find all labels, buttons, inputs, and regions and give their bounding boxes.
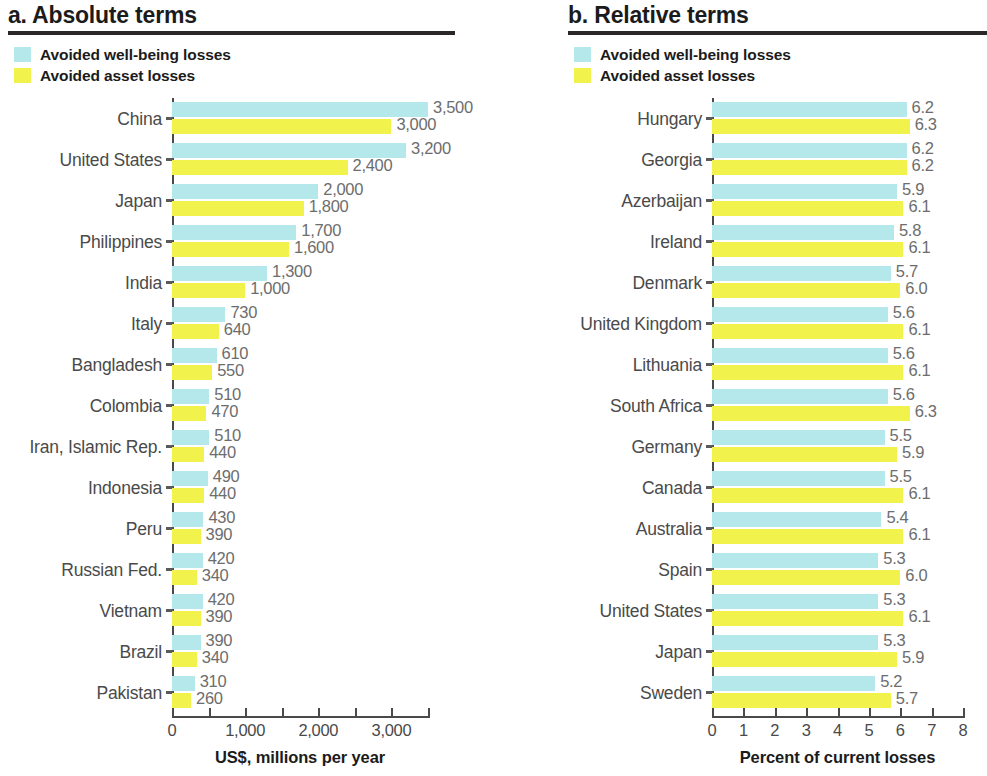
x-axis-tick-label: 2: [770, 721, 779, 740]
bar-group-row: Hungary6.26.3: [560, 102, 987, 136]
bar-group-row: Pakistan310260: [0, 676, 470, 710]
category-label: Georgia: [552, 150, 702, 171]
bar-asset: [712, 160, 907, 175]
bar-wellbeing: [712, 348, 888, 363]
bar-value-label: 390: [206, 525, 233, 544]
bar-wellbeing: [712, 430, 885, 445]
bar-group-row: Germany5.55.9: [560, 430, 987, 464]
bar-asset: [172, 611, 201, 626]
bar-asset: [172, 324, 219, 339]
x-axis-tick-label: 4: [833, 721, 842, 740]
bar-group-row: Russian Fed.420340: [0, 553, 470, 587]
bar-asset: [712, 570, 900, 585]
category-label: Italy: [0, 314, 162, 335]
bar-wellbeing: [712, 676, 875, 691]
category-label: Lithuania: [552, 355, 702, 376]
bar-value-label: 3,200: [411, 139, 451, 158]
bar-asset: [712, 652, 897, 667]
x-axis-tick: [245, 708, 247, 716]
bar-asset: [712, 447, 897, 462]
legend-swatch-wellbeing-icon: [574, 47, 591, 62]
bar-group-row: Spain5.36.0: [560, 553, 987, 587]
bar-wellbeing: [172, 553, 203, 568]
panel-b-legend: Avoided well-being losses Avoided asset …: [574, 44, 791, 86]
x-axis-tick: [172, 708, 174, 716]
bar-value-label: 6.0: [905, 279, 927, 298]
bar-value-label: 3,500: [433, 98, 473, 117]
bar-asset: [172, 447, 204, 462]
bar-value-label: 550: [217, 361, 244, 380]
bar-asset: [172, 406, 206, 421]
x-axis-tick-label: 7: [927, 721, 936, 740]
x-axis-minor-tick: [282, 708, 284, 716]
bar-group-row: China3,5003,000: [0, 102, 470, 136]
bar-wellbeing: [712, 512, 881, 527]
category-label: Hungary: [552, 109, 702, 130]
x-axis-tick: [743, 708, 745, 716]
category-label: Peru: [0, 519, 162, 540]
legend-label-wellbeing: Avoided well-being losses: [40, 46, 231, 64]
bar-wellbeing: [712, 635, 878, 650]
category-label: Spain: [552, 560, 702, 581]
bar-asset: [712, 119, 910, 134]
bar-group-row: United States3,2002,400: [0, 143, 470, 177]
bar-group-row: United States5.36.1: [560, 594, 987, 628]
bar-wellbeing: [712, 471, 885, 486]
category-label: Iran, Islamic Rep.: [0, 437, 162, 458]
bar-value-label: 6.3: [915, 115, 937, 134]
bar-value-label: 6.1: [908, 361, 930, 380]
category-label: United Kingdom: [552, 314, 702, 335]
x-axis-minor-tick: [209, 708, 211, 716]
bar-wellbeing: [712, 389, 888, 404]
category-label: Japan: [0, 191, 162, 212]
bar-group-row: United Kingdom5.66.1: [560, 307, 987, 341]
bar-wellbeing: [172, 348, 217, 363]
bar-value-label: 340: [202, 648, 229, 667]
bar-wellbeing: [172, 430, 209, 445]
bar-value-label: 2,400: [353, 156, 393, 175]
bar-value-label: 6.1: [908, 484, 930, 503]
bar-group-row: Bangladesh610550: [0, 348, 470, 382]
bar-group-row: Japan5.35.9: [560, 635, 987, 669]
x-axis-tick-label: 0: [168, 721, 177, 740]
bar-asset: [712, 488, 903, 503]
legend-item-wellbeing: Avoided well-being losses: [14, 44, 231, 65]
category-label: China: [0, 109, 162, 130]
panel-a-legend: Avoided well-being losses Avoided asset …: [14, 44, 231, 86]
bar-asset: [172, 119, 391, 134]
x-axis-tick-label: 2,000: [298, 721, 338, 740]
x-axis-tick-label: 5: [864, 721, 873, 740]
x-axis-title: US$, millions per year: [172, 748, 428, 767]
category-label: Philippines: [0, 232, 162, 253]
category-label: Russian Fed.: [0, 560, 162, 581]
bar-value-label: 5.6: [893, 385, 915, 404]
bar-value-label: 5.7: [896, 689, 918, 708]
bar-value-label: 6.3: [915, 402, 937, 421]
bar-wellbeing: [172, 676, 195, 691]
x-axis-tick: [869, 708, 871, 716]
bar-group-row: Philippines1,7001,600: [0, 225, 470, 259]
panel-a-title: a. Absolute terms: [8, 2, 197, 29]
x-axis-tick: [900, 708, 902, 716]
bar-wellbeing: [172, 389, 209, 404]
bar-value-label: 440: [209, 484, 236, 503]
x-axis-tick-label: 3: [802, 721, 811, 740]
bar-group-row: Italy730640: [0, 307, 470, 341]
x-axis-minor-tick: [355, 708, 357, 716]
bar-value-label: 6.1: [908, 197, 930, 216]
bar-group-row: Canada5.56.1: [560, 471, 987, 505]
bar-asset: [172, 652, 197, 667]
bar-group-row: Australia5.46.1: [560, 512, 987, 546]
x-axis-line: [712, 716, 965, 718]
x-axis-tick: [963, 708, 965, 716]
bar-wellbeing: [172, 512, 203, 527]
category-label: Denmark: [552, 273, 702, 294]
bar-wellbeing: [712, 184, 897, 199]
bar-value-label: 640: [224, 320, 251, 339]
bar-asset: [712, 529, 903, 544]
bar-wellbeing: [712, 102, 907, 117]
bar-value-label: 6.1: [908, 525, 930, 544]
bar-value-label: 1,000: [250, 279, 290, 298]
bar-asset: [712, 406, 910, 421]
bar-group-row: Azerbaijan5.96.1: [560, 184, 987, 218]
